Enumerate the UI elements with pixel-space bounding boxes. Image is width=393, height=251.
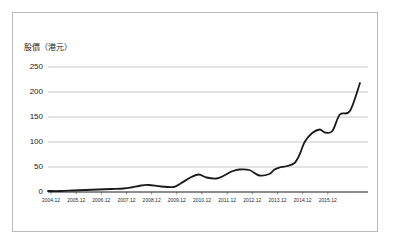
y-tick-label: 100 [17,138,43,146]
x-tick-label: 2012.12 [238,197,266,203]
y-tick-label: 150 [17,113,43,121]
gridlines-group [48,67,368,167]
x-tick-label: 2011.12 [213,197,241,203]
y-tick-label: 200 [17,88,43,96]
x-tick-label: 2015.12 [314,197,342,203]
y-tick-label: 50 [17,163,43,171]
x-tick-label: 2007.12 [113,197,141,203]
x-tick-label: 2009.12 [163,197,191,203]
line-chart-plot [0,0,393,251]
x-tick-label: 2006.12 [87,197,115,203]
chart-figure: 股價（港元） 050100150200250 2004.122005.12200… [0,0,393,251]
x-tick-label: 2004.12 [37,197,65,203]
x-tick-label: 2014.12 [289,197,317,203]
y-tick-label: 250 [17,63,43,71]
x-tick-label: 2005.12 [62,197,90,203]
x-tick-label: 2010.12 [188,197,216,203]
y-tick-label: 0 [17,188,43,196]
x-tick-label: 2013.12 [263,197,291,203]
price-series-line [48,83,360,191]
x-tick-label: 2008.12 [138,197,166,203]
